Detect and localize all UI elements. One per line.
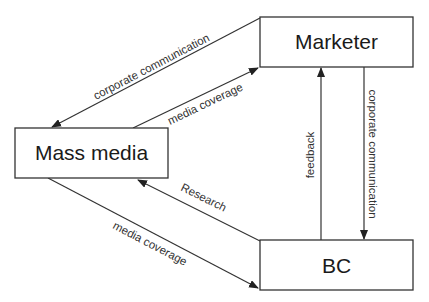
communication-diagram: corporate communication media coverage f…	[0, 0, 429, 302]
node-marketer: Marketer	[260, 17, 413, 67]
edge-bc-to-mass-media: Research	[138, 180, 260, 241]
edge-mass-media-to-marketer: media coverage	[133, 68, 258, 128]
node-label-mass-media: Mass media	[35, 141, 149, 164]
node-label-marketer: Marketer	[295, 30, 378, 53]
node-label-bc: BC	[322, 254, 351, 277]
edge-label-feedback: feedback	[304, 131, 316, 178]
edge-label-research: Research	[179, 181, 228, 214]
edge-marketer-to-mass-media: corporate communication	[52, 18, 260, 127]
edge-label-media-coverage-1: media coverage	[166, 81, 245, 127]
edge-label-corporate-communication-1: corporate communication	[91, 31, 211, 101]
node-bc: BC	[260, 240, 413, 290]
edge-bc-to-marketer: feedback	[304, 68, 321, 240]
edge-mass-media-to-bc: media coverage	[48, 178, 258, 288]
edge-marketer-to-bc: corporate communication	[364, 67, 379, 239]
edge-label-corporate-communication-2: corporate communication	[367, 89, 379, 218]
edge-label-media-coverage-2: media coverage	[111, 219, 189, 268]
node-mass-media: Mass media	[15, 128, 168, 178]
